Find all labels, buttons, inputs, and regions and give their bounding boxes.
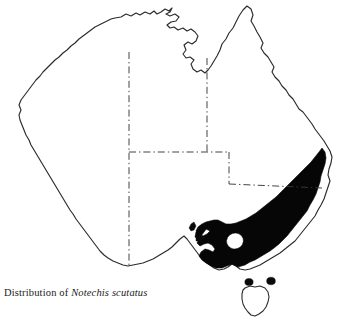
australia-map	[0, 0, 338, 329]
figure-caption: Distribution of Notechis scutatus	[4, 286, 148, 299]
tasmania-outline	[242, 286, 269, 316]
caption-prefix: Distribution of	[4, 287, 68, 298]
flinders-island-range	[267, 277, 276, 285]
caption-species-name: Notechis scutatus	[71, 287, 147, 298]
distribution-map-figure: Distribution of Notechis scutatus	[0, 0, 338, 329]
king-island-range	[245, 278, 253, 285]
